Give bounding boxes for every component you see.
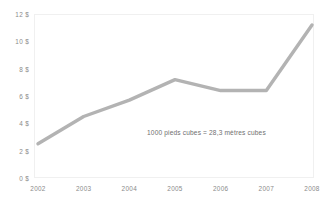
y-tick-label: 8 $ [0, 65, 29, 72]
plot-area [34, 14, 314, 178]
unit-conversion-annotation: 1000 pieds cubes = 28,3 mètres cubes [147, 129, 266, 136]
x-tick-label: 2003 [76, 185, 91, 192]
line-chart: 12 $10 $8 $6 $4 $2 $0 $ 2002200320042005… [0, 0, 326, 212]
y-tick-label: 10 $ [0, 38, 29, 45]
x-tick-label: 2008 [304, 185, 319, 192]
x-tick-label: 2005 [167, 185, 182, 192]
y-tick-label: 0 $ [0, 175, 29, 182]
x-tick-label: 2006 [213, 185, 228, 192]
y-tick-label: 2 $ [0, 147, 29, 154]
y-tick-label: 6 $ [0, 93, 29, 100]
x-axis: 2002200320042005200620072008 [0, 185, 326, 205]
y-tick-label: 4 $ [0, 120, 29, 127]
x-tick-label: 2007 [259, 185, 274, 192]
x-tick-label: 2002 [30, 185, 45, 192]
y-axis: 12 $10 $8 $6 $4 $2 $0 $ [0, 0, 32, 212]
y-tick-label: 12 $ [0, 11, 29, 18]
x-tick-label: 2004 [122, 185, 137, 192]
